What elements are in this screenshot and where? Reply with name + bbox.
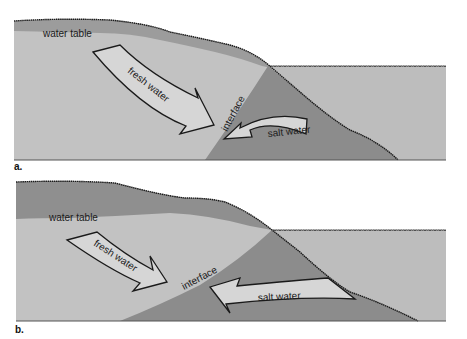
- panel-a: water table fresh water interface salt w…: [14, 19, 446, 172]
- panel-label-a: a.: [14, 161, 23, 172]
- panel-b: water table fresh water interface salt w…: [15, 181, 446, 335]
- water-table-label-b: water table: [48, 212, 98, 223]
- water-table-label-a: water table: [42, 28, 92, 39]
- panel-label-b: b.: [15, 324, 24, 335]
- diagram-canvas: water table fresh water interface salt w…: [0, 0, 467, 339]
- sea-surface-waves-b: [272, 227, 446, 231]
- salt-water-label-b: salt water: [258, 290, 302, 303]
- sea-surface-waves-a: [268, 63, 446, 67]
